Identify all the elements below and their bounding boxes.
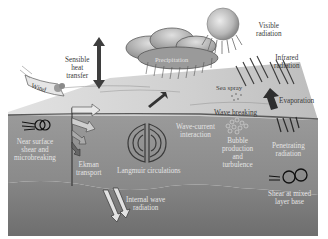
label-visible-radiation: Visible radiation (256, 22, 282, 38)
label-bubble-production: Bubble production and turbulence (222, 137, 253, 169)
label-penetrating-radiation: Penetrating radiation (272, 142, 305, 158)
label-langmuir-circulations: Langmuir circulations (117, 167, 181, 175)
label-wave-current-interaction: Wave-current interaction (176, 123, 215, 139)
label-precipitation: Precipitation (155, 56, 188, 64)
label-shear-mixed-layer-base: Shear at mixed layer base (268, 190, 311, 206)
label-wave-breaking: Wave breaking (214, 109, 257, 117)
label-internal-wave-radiation: Internal wave radiation (126, 196, 165, 212)
label-sea-spray: Sea spray (216, 84, 242, 92)
label-evaporation: Evaporation (279, 97, 314, 105)
label-near-surface-shear: Near surface shear and microbreaking (14, 138, 56, 162)
sensible-heat-double-arrow (93, 37, 105, 89)
ocean-mixed-layer-diagram: Sensible heat transfer Precipitation Vis… (0, 0, 328, 239)
label-ekman-transport: Ekman transport (76, 161, 102, 177)
label-sensible-heat-transfer: Sensible heat transfer (65, 56, 89, 80)
label-infrared-radiation: Infrared radiation (274, 54, 300, 70)
